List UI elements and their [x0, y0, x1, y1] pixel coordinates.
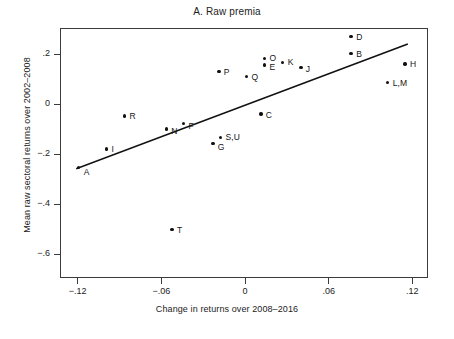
y-tick-label: 0 [4, 98, 50, 108]
y-tick-label: .2 [4, 48, 50, 58]
fit-line-segment [77, 44, 407, 168]
chart-title: A. Raw premia [0, 6, 454, 17]
scatter-point-label: T [177, 225, 182, 235]
scatter-point[interactable] [299, 66, 302, 69]
scatter-point-label: F [189, 121, 194, 131]
x-tick-mark [328, 278, 329, 284]
scatter-point-label: C [266, 110, 272, 120]
scatter-point-label: G [218, 142, 225, 152]
scatter-point[interactable] [211, 142, 214, 145]
scatter-point-label: H [410, 59, 416, 69]
scatter-point[interactable] [182, 122, 185, 125]
x-tick-label: .12 [392, 286, 432, 296]
regression-fit-line [61, 29, 427, 277]
scatter-point-label: R [130, 111, 136, 121]
x-tick-label: −.06 [141, 286, 181, 296]
scatter-point[interactable] [263, 57, 266, 60]
plot-inner: AIRNFTGS,UPQCOEKJDBL,MH [61, 29, 427, 277]
x-tick-mark [77, 278, 78, 284]
scatter-point-label: E [270, 62, 276, 72]
scatter-point-label: S,U [226, 132, 240, 142]
scatter-point[interactable] [349, 35, 352, 38]
scatter-point[interactable] [386, 81, 389, 84]
scatter-point-label: P [224, 67, 230, 77]
x-tick-label: 0 [225, 286, 265, 296]
scatter-point-label: Q [251, 72, 258, 82]
x-axis-label: Change in returns over 2008–2016 [0, 304, 454, 314]
scatter-point-label: K [288, 57, 294, 67]
x-tick-mark [245, 278, 246, 284]
scatter-point[interactable] [403, 62, 406, 65]
scatter-point[interactable] [281, 61, 284, 64]
scatter-point[interactable] [170, 228, 173, 231]
scatter-point-label: D [356, 32, 362, 42]
scatter-point[interactable] [123, 114, 126, 117]
scatter-point[interactable] [105, 147, 108, 150]
scatter-point-label: J [306, 64, 310, 74]
scatter-point[interactable] [219, 136, 222, 139]
y-tick-label: −.4 [4, 198, 50, 208]
scatter-point[interactable] [245, 75, 248, 78]
scatter-point[interactable] [263, 63, 266, 66]
scatter-point[interactable] [217, 70, 220, 73]
scatter-point-label: B [356, 49, 362, 59]
x-tick-label: −.12 [58, 286, 98, 296]
scatter-point[interactable] [77, 166, 80, 169]
scatter-point[interactable] [165, 127, 168, 130]
y-tick-label: −.2 [4, 148, 50, 158]
y-tick-label: −.6 [4, 248, 50, 258]
y-axis-label: Mean raw sectoral returns over 2002–2008 [22, 5, 36, 285]
scatter-point-label: I [111, 144, 113, 154]
plot-area: AIRNFTGS,UPQCOEKJDBL,MH [60, 28, 428, 278]
scatter-point[interactable] [349, 52, 352, 55]
x-tick-label: .06 [309, 286, 349, 296]
scatter-point-label: N [171, 126, 177, 136]
scatter-point-label: A [84, 167, 90, 177]
scatter-point-label: L,M [393, 78, 407, 88]
chart-figure: A. Raw premia Mean raw sectoral returns … [0, 0, 454, 339]
scatter-point[interactable] [259, 112, 262, 115]
x-tick-mark [412, 278, 413, 284]
x-tick-mark [161, 278, 162, 284]
